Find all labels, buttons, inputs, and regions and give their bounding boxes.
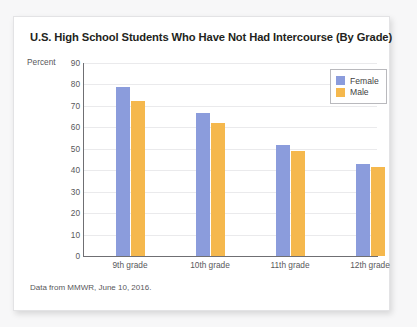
y-axis-tick: 50	[54, 144, 80, 154]
x-axis-tick: 11th grade	[255, 260, 325, 270]
y-axis-line	[83, 63, 84, 257]
screenshot-page: U.S. High School Students Who Have Not H…	[0, 0, 417, 327]
legend-label: Male	[350, 87, 369, 97]
bar-female	[116, 87, 130, 256]
y-axis-tick: 10	[54, 230, 80, 240]
y-axis-tick: 70	[54, 101, 80, 111]
x-axis-tick: 12th grade	[335, 260, 405, 270]
chart-title: U.S. High School Students Who Have Not H…	[30, 31, 392, 43]
bar-male	[131, 101, 145, 256]
legend-item[interactable]: Female	[336, 76, 379, 86]
legend-label: Female	[350, 76, 379, 86]
bar-male	[371, 167, 385, 256]
y-axis-tick: 20	[54, 208, 80, 218]
chart-card: U.S. High School Students Who Have Not H…	[13, 16, 390, 311]
bar-female	[196, 113, 210, 256]
bar-group	[196, 63, 225, 256]
y-axis-tick: 80	[54, 79, 80, 89]
bar-group	[276, 63, 305, 256]
bar-male	[211, 123, 225, 256]
y-axis-tick: 60	[54, 122, 80, 132]
y-axis-tick: 0	[54, 251, 80, 261]
bar-female	[356, 164, 370, 256]
x-axis-tick: 10th grade	[175, 260, 245, 270]
chart-legend: FemaleMale	[330, 69, 387, 104]
y-axis-tick: 40	[54, 165, 80, 175]
y-axis-tick: 30	[54, 187, 80, 197]
x-axis-tick: 9th grade	[95, 260, 165, 270]
chart-source-note: Data from MMWR, June 10, 2016.	[30, 283, 151, 292]
y-axis-tick-labels: 0102030405060708090	[50, 63, 80, 256]
bar-female	[276, 145, 290, 257]
legend-item[interactable]: Male	[336, 87, 379, 97]
x-axis-line	[83, 256, 378, 257]
bar-group	[116, 63, 145, 256]
bar-male	[291, 151, 305, 256]
legend-swatch-icon	[336, 76, 345, 85]
legend-swatch-icon	[336, 88, 345, 97]
y-axis-tick: 90	[54, 58, 80, 68]
